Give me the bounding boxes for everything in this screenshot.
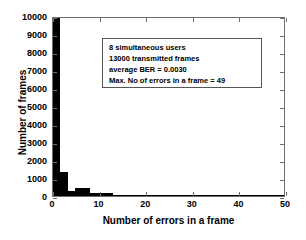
y-tick-label: 10000 — [1, 12, 47, 22]
x-tick-label: 30 — [177, 199, 207, 209]
annotation-line: Max. No of errors in a frame = 49 — [109, 75, 261, 86]
y-axis-title: Number of frames — [17, 43, 28, 183]
annotation-line: 13000 transmitted frames — [109, 53, 261, 64]
x-tick-label: 20 — [130, 199, 160, 209]
annotation-textbox: 8 simultaneous users 13000 transmitted f… — [102, 38, 262, 88]
x-tick-label: 40 — [223, 199, 253, 209]
x-axis-title: Number of errors in a frame — [52, 215, 285, 226]
y-tick-label: 9000 — [1, 30, 47, 40]
x-tick-label: 0 — [37, 199, 67, 209]
x-tick-label: 10 — [84, 199, 114, 209]
annotation-line: 8 simultaneous users — [109, 42, 261, 53]
x-tick-label: 50 — [270, 199, 300, 209]
chart-figure: 0100020003000400050006000700080009000100… — [0, 0, 306, 240]
annotation-line: average BER = 0.0030 — [109, 64, 261, 75]
